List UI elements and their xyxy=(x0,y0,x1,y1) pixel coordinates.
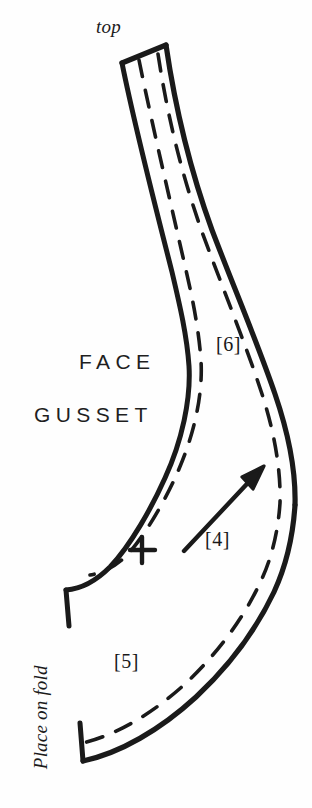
page-title: FACE GUSSET xyxy=(34,325,155,478)
step-label-5: [5] xyxy=(114,650,139,674)
outline-left-notch-step xyxy=(66,590,69,626)
piece-name-line-2: GUSSET xyxy=(34,403,155,428)
outline-fold-lower-segment xyxy=(80,723,83,761)
label-place-on-fold: Place on fold xyxy=(30,647,52,787)
label-top: top xyxy=(96,16,121,38)
notch-cross-icon xyxy=(130,537,155,563)
step-label-6: [6] xyxy=(216,333,241,357)
piece-name-line-1: FACE xyxy=(79,350,155,373)
pattern-diagram-page: top FACE GUSSET [6] [4] [5] Place on fol… xyxy=(0,0,312,808)
step-label-4: [4] xyxy=(205,528,230,552)
